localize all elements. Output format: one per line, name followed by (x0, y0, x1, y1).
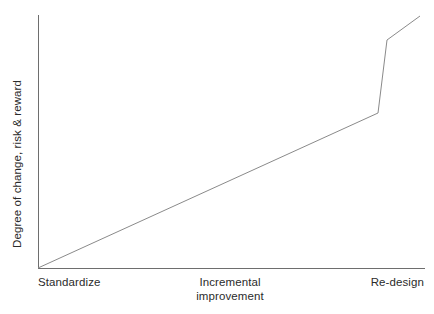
chart-figure: Degree of change, risk & reward Standard… (0, 0, 434, 314)
y-axis-label: Degree of change, risk & reward (11, 8, 27, 248)
x-tick-label-re-design: Re-design (340, 276, 424, 290)
x-tick-label-standardize: Standardize (38, 276, 100, 290)
chart-plot-area (0, 0, 434, 314)
x-tick-label-incremental-improvement: Incrementalimprovement (160, 276, 300, 303)
series-line-degree-of-change (38, 16, 420, 268)
x-tick-label-incremental-line2: improvement (196, 290, 264, 302)
x-tick-label-incremental-line1: Incremental (199, 276, 260, 288)
